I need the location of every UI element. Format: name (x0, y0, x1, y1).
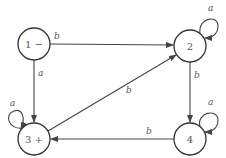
edge-4-3: b (51, 126, 174, 139)
svg-text:b: b (54, 31, 60, 41)
state-3-final: 3 + (18, 123, 50, 155)
edge-3-3-loop: a (8, 98, 23, 129)
svg-text:a: a (208, 97, 213, 107)
edge-4-4-loop: a (200, 97, 218, 132)
state-1-start: 1 − (18, 28, 50, 60)
edge-2-4: b (190, 62, 200, 122)
automaton-diagram: b a a b a b a b 1 − 2 3 + 4 (0, 0, 226, 158)
svg-text:b: b (146, 126, 152, 136)
state-4: 4 (174, 123, 206, 155)
svg-text:a: a (38, 68, 43, 78)
svg-text:3 +: 3 + (25, 134, 43, 145)
svg-text:a: a (208, 3, 213, 13)
svg-text:4: 4 (187, 134, 193, 145)
svg-text:a: a (10, 98, 15, 108)
edge-1-2: b (50, 31, 173, 45)
edge-3-2: b (48, 55, 176, 131)
state-2: 2 (174, 30, 206, 62)
edge-2-2-loop: a (200, 3, 218, 38)
svg-text:2: 2 (187, 41, 193, 52)
edge-1-3: a (34, 60, 43, 122)
svg-text:b: b (194, 70, 200, 80)
svg-text:b: b (126, 85, 132, 95)
svg-text:1 −: 1 − (25, 39, 43, 50)
